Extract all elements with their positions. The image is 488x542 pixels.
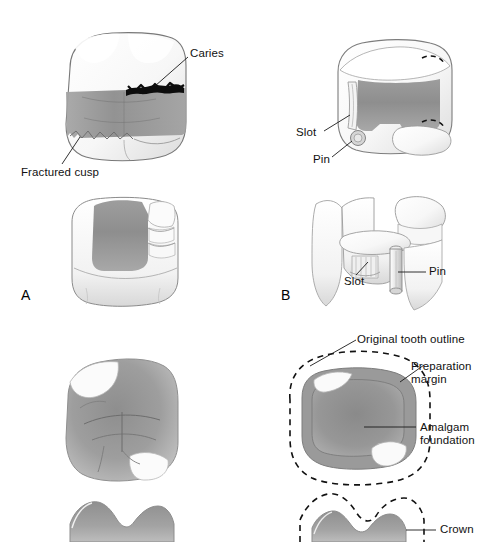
dental-illustration-figure: Caries Fractured cusp Slot Pin Slot Pin … [0, 0, 488, 542]
panel-c-occlusal-foundation [66, 359, 178, 481]
panel-letter-a: A [21, 287, 30, 303]
label-original-tooth-outline: Original tooth outline [357, 333, 465, 347]
label-fractured-cusp: Fractured cusp [21, 166, 99, 180]
label-crown: Crown [440, 523, 474, 537]
label-slot-occlusal: Slot [296, 126, 316, 140]
panel-b-proximal-slot-pin [312, 197, 445, 310]
illustration-artwork [0, 0, 488, 542]
panel-letter-b: B [281, 287, 290, 303]
panel-a-proximal-tooth [72, 197, 178, 306]
label-slot-proximal: Slot [344, 275, 364, 289]
panel-c-cross-section [70, 502, 174, 542]
label-amalgam-foundation-line2: foundation [420, 434, 475, 448]
label-caries: Caries [190, 47, 224, 61]
panel-b-occlusal-preparation [324, 40, 452, 157]
panel-d-cross-section-crown [300, 494, 436, 542]
label-amalgam-foundation-line1: Amalgam [420, 421, 469, 435]
label-preparation-margin-line2: margin [411, 373, 447, 387]
label-pin-occlusal: Pin [313, 153, 330, 167]
panel-a-facial-tooth [62, 33, 188, 164]
panel-d-occlusal-margin [290, 340, 430, 485]
label-pin-proximal: Pin [429, 265, 446, 279]
label-preparation-margin-line1: Preparation [411, 360, 472, 374]
